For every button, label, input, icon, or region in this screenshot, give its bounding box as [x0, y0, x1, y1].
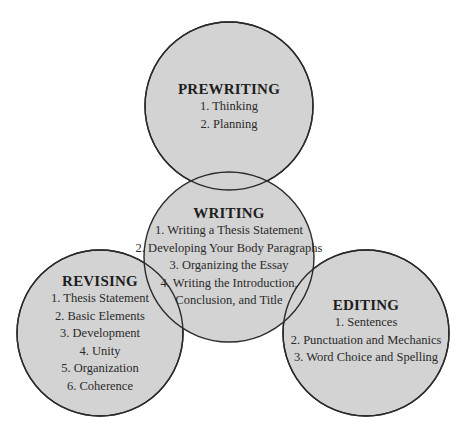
writing-label: WRITING 1. Writing a Thesis Statement 2.… [136, 204, 323, 310]
editing-title: EDITING [291, 296, 442, 314]
revising-item: 4. Unity [51, 343, 149, 361]
revising-item: 3. Development [51, 325, 149, 343]
prewriting-title: PREWRITING [178, 80, 280, 98]
editing-item: 1. Sentences [291, 314, 442, 332]
editing-label: EDITING 1. Sentences 2. Punctuation and … [291, 296, 442, 367]
revising-item: 1. Thesis Statement [51, 290, 149, 308]
writing-item: 1. Writing a Thesis Statement [136, 222, 323, 240]
writing-item: 4. Writing the Introduction, [136, 275, 323, 293]
editing-item: 3. Word Choice and Spelling [291, 349, 442, 367]
writing-item: 3. Organizing the Essay [136, 257, 323, 275]
revising-item: 6. Coherence [51, 378, 149, 396]
revising-item: 2. Basic Elements [51, 308, 149, 326]
prewriting-label: PREWRITING 1. Thinking 2. Planning [178, 80, 280, 133]
prewriting-item: 2. Planning [178, 116, 280, 134]
editing-item: 2. Punctuation and Mechanics [291, 332, 442, 350]
writing-item: 2. Developing Your Body Paragraphs [136, 240, 323, 258]
prewriting-item: 1. Thinking [178, 98, 280, 116]
revising-label: REVISING 1. Thesis Statement 2. Basic El… [51, 272, 149, 395]
revising-title: REVISING [51, 272, 149, 290]
revising-item: 5. Organization [51, 360, 149, 378]
writing-title: WRITING [136, 204, 323, 222]
